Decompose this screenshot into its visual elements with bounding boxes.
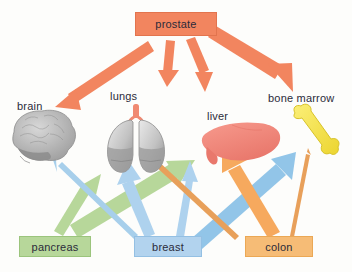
- node-pancreas-label: pancreas: [32, 241, 79, 253]
- node-breast-label: breast: [152, 241, 184, 253]
- arrow-prostate-liver: [186, 37, 213, 92]
- arrow-breast-bone-marrow: [192, 152, 296, 249]
- arrow-prostate-lungs: [158, 40, 179, 87]
- bone-icon: [294, 104, 339, 154]
- organ-label-lungs: lungs: [110, 90, 137, 102]
- arrow-layer: [0, 0, 352, 272]
- arrow-prostate-brain: [55, 41, 154, 110]
- node-breast[interactable]: breast: [134, 236, 202, 257]
- organ-label-liver: liver: [207, 110, 228, 122]
- liver-icon: [202, 122, 280, 164]
- arrow-prostate-bone-marrow: [208, 26, 293, 92]
- node-pancreas[interactable]: pancreas: [19, 236, 91, 257]
- lungs-icon: [107, 104, 164, 172]
- node-prostate-label: prostate: [155, 18, 196, 30]
- node-colon[interactable]: colon: [245, 236, 313, 257]
- node-prostate[interactable]: prostate: [135, 12, 217, 36]
- brain-icon: [13, 110, 76, 163]
- node-colon-label: colon: [265, 241, 292, 253]
- diagram-canvas: prostate pancreas breast colon brain lun…: [0, 0, 352, 272]
- organ-label-bone-marrow: bone marrow: [268, 92, 334, 104]
- organ-label-brain: brain: [17, 100, 42, 112]
